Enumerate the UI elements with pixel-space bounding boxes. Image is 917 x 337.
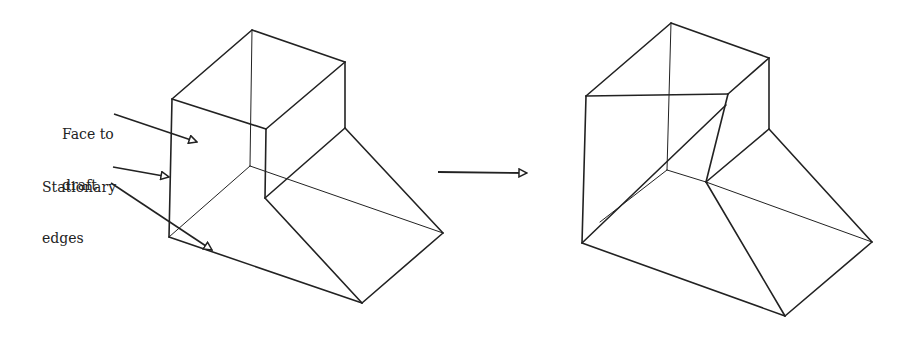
arrow-stationary-edge-1 bbox=[113, 167, 169, 177]
figure-after bbox=[582, 23, 872, 316]
figure-before bbox=[169, 30, 443, 303]
transition-arrow bbox=[438, 172, 527, 173]
callout-arrows bbox=[111, 114, 212, 250]
diagram-canvas bbox=[0, 0, 917, 337]
arrow-stationary-edge-2 bbox=[111, 183, 212, 250]
arrow-face-to-draft bbox=[114, 114, 197, 142]
